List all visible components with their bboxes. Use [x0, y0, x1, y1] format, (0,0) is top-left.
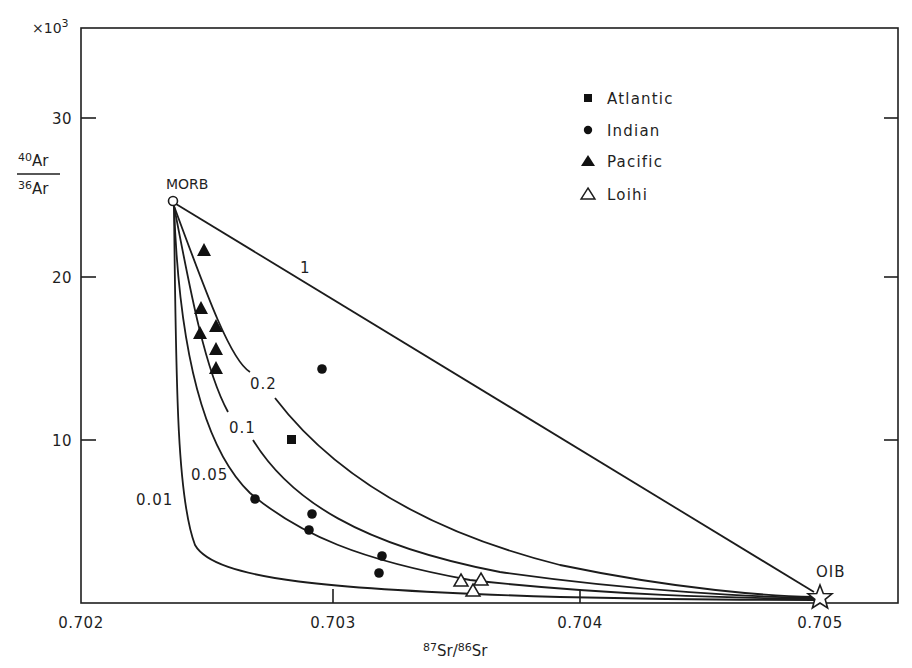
mixing-curves — [174, 204, 814, 600]
pacific-point-icon — [197, 243, 211, 256]
x-tick-0704: 0.704 — [557, 614, 602, 632]
series-indian — [250, 364, 387, 578]
mixing-curve-0.05 — [174, 206, 814, 599]
pacific-point-icon — [194, 301, 208, 314]
mixing-curve-1 — [176, 204, 814, 592]
svg-text:36Ar: 36Ar — [18, 179, 49, 198]
x-tick-0702: 0.702 — [58, 614, 103, 632]
indian-point-icon — [374, 568, 384, 578]
pacific-point-icon — [209, 342, 223, 355]
legend-indian-icon — [584, 126, 592, 134]
indian-point-icon — [250, 494, 260, 504]
y-multiplier: ×103 — [32, 17, 69, 36]
x-tick-0703: 0.703 — [310, 614, 355, 632]
y-axis-label: 40Ar 36Ar — [17, 151, 60, 198]
indian-point-icon — [317, 364, 327, 374]
curve-label-1: 1 — [300, 259, 311, 277]
morb-label: MORB — [166, 176, 208, 192]
legend-indian-label: Indian — [607, 122, 661, 140]
y-tick-30: 30 — [52, 110, 72, 128]
indian-point-icon — [304, 525, 314, 535]
x-axis-label: 87Sr/86Sr — [423, 641, 488, 660]
curve-label-0.1: 0.1 — [229, 419, 256, 437]
series-pacific — [193, 243, 223, 374]
curve-label-0.2: 0.2 — [250, 375, 277, 393]
legend-atlantic-label: Atlantic — [607, 90, 674, 108]
svg-text:40Ar: 40Ar — [18, 151, 49, 170]
oib-star-icon — [808, 585, 832, 608]
y-tick-20: 20 — [52, 269, 72, 287]
sr-ar-mixing-chart: 10 20 30 ×103 40Ar 36Ar 0.702 0.703 0.70… — [0, 0, 912, 668]
oib-label: OIB — [816, 563, 846, 581]
mixing-curve-0.01 — [174, 206, 814, 600]
legend-loihi-icon — [581, 188, 595, 199]
mixing-curve-0.1 — [174, 206, 814, 598]
legend-loihi-label: Loihi — [607, 186, 648, 204]
legend-pacific-label: Pacific — [607, 153, 663, 171]
legend-atlantic-icon — [584, 94, 592, 102]
indian-point-icon — [307, 509, 317, 519]
curve-label-0.05: 0.05 — [191, 466, 228, 484]
loihi-point-icon — [474, 573, 488, 585]
legend-pacific-icon — [581, 155, 595, 166]
pacific-point-icon — [209, 361, 223, 374]
x-tick-0705: 0.705 — [797, 614, 842, 632]
curve-label-0.01: 0.01 — [136, 491, 173, 509]
y-axis-ticks — [81, 118, 898, 440]
pacific-point-icon — [193, 326, 207, 339]
morb-marker-icon — [169, 197, 178, 206]
indian-point-icon — [377, 551, 387, 561]
mixing-curve-0.2 — [174, 206, 814, 597]
atlantic-point-icon — [287, 435, 296, 444]
plot-frame — [81, 28, 898, 603]
y-tick-10: 10 — [52, 432, 72, 450]
legend: Atlantic Indian Pacific Loihi — [581, 90, 674, 204]
